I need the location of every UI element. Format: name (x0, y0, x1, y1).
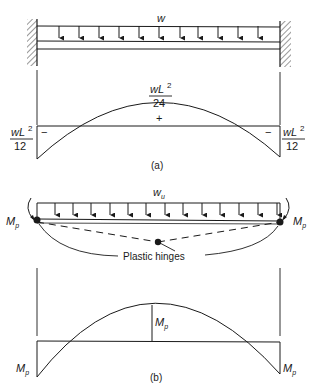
distributed-load-arrows (59, 26, 258, 38)
svg-text:24: 24 (153, 97, 165, 109)
part-a-fixed-beam: w wL 2 24 + − − wL 2 12 wL (10, 12, 305, 171)
svg-text:wL: wL (150, 83, 164, 95)
left-moment-label-mp: Mp (6, 215, 19, 230)
negative-sign-left: − (41, 126, 47, 138)
svg-text:12: 12 (14, 140, 26, 152)
svg-text:wL: wL (11, 126, 25, 138)
midspan-moment-label-mp: Mp (155, 316, 168, 331)
plastic-hinge-right (277, 219, 284, 226)
ultimate-load-arrows (55, 203, 277, 215)
svg-text:2: 2 (300, 124, 305, 133)
plastic-hinges-label: Plastic hinges (123, 251, 185, 262)
right-fixed-support (280, 21, 291, 67)
left-end-moment-label-a: wL 2 12 (10, 124, 33, 152)
part-b-plastic-mechanism: wu Mp Mp Plastic hinges (6, 186, 306, 383)
svg-text:2: 2 (167, 81, 172, 90)
load-label-w: w (157, 12, 166, 24)
right-end-moment-label-a: wL 2 12 (282, 124, 305, 152)
positive-sign: + (156, 112, 162, 124)
left-fixed-support (27, 19, 37, 66)
plastic-hinge-left (34, 217, 41, 224)
beam-moment-diagram: w wL 2 24 + − − wL 2 12 wL (0, 0, 323, 385)
svg-text:wL: wL (283, 126, 297, 138)
negative-sign-right: − (265, 126, 271, 138)
load-label-wu: wu (153, 186, 165, 200)
caption-a: (a) (151, 160, 163, 171)
svg-text:2: 2 (28, 124, 33, 133)
moment-diagram-a (37, 102, 280, 159)
svg-text:12: 12 (286, 140, 298, 152)
moment-diagram-b (37, 303, 280, 377)
right-moment-label-mp: Mp (293, 215, 306, 230)
right-end-moment-label-mp: Mp (283, 362, 296, 377)
left-end-moment-label-mp: Mp (16, 362, 29, 377)
midspan-moment-label-a: wL 2 24 (149, 81, 172, 109)
caption-b: (b) (150, 372, 162, 383)
